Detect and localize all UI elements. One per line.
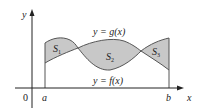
area-between-curves-figure: y x 0 a b y = g(x) y = f(x) S1 S2 S3 (0, 0, 199, 110)
diagram-canvas: y x 0 a b y = g(x) y = f(x) S1 S2 S3 (0, 0, 199, 110)
tick-label-a: a (42, 92, 47, 103)
tick-label-b: b (166, 92, 171, 103)
y-axis-arrow-icon (30, 9, 35, 16)
y-axis-label: y (21, 9, 27, 20)
x-axis-label: x (186, 92, 192, 103)
curve-label-g: y = g(x) (92, 26, 126, 38)
x-axis-arrow-icon (177, 86, 184, 91)
curve-label-f: y = f(x) (92, 75, 124, 87)
origin-label: 0 (23, 92, 28, 103)
